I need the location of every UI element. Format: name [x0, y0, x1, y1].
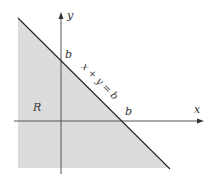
region-diagram: y x b b R x + y = b — [0, 0, 211, 184]
y-intercept-label: b — [65, 48, 72, 61]
y-axis-label: y — [66, 9, 74, 22]
y-axis-arrow-icon — [59, 12, 64, 19]
x-axis-label: x — [194, 103, 201, 116]
x-axis-arrow-icon — [197, 119, 204, 124]
x-intercept-label: b — [125, 105, 132, 118]
region-label: R — [32, 101, 41, 114]
